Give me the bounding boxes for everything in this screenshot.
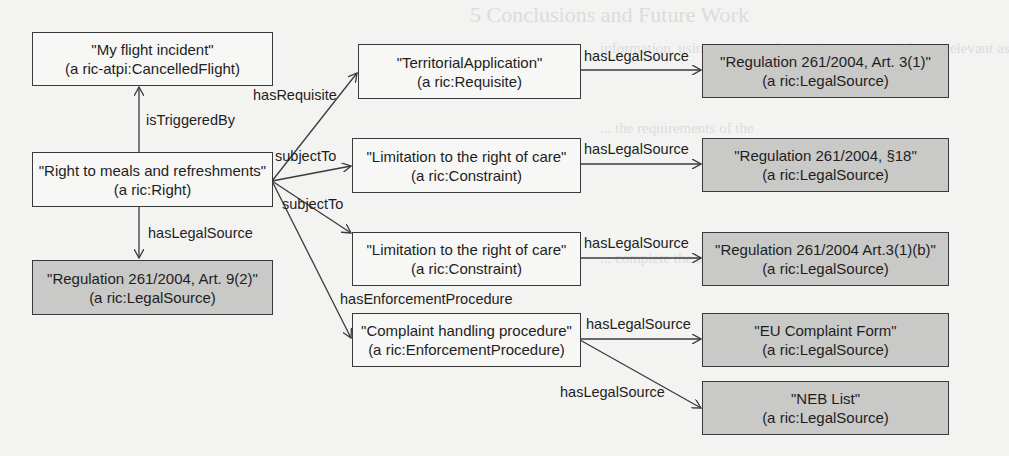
edge-label-has-legal-source-art9: hasLegalSource [148, 225, 253, 241]
node-reg-art3-1: "Regulation 261/2004, Art. 3(1)" (a ric:… [702, 44, 949, 98]
node-title: "Limitation to the right of care" [367, 147, 567, 166]
node-title: "Regulation 261/2004 Art.3(1)(b)" [715, 240, 936, 259]
node-type: (a ric:Requisite) [417, 72, 522, 91]
edge-label-is-triggered-by: isTriggeredBy [146, 112, 235, 128]
node-title: "Right to meals and refreshments" [39, 161, 266, 180]
edge-label-complaint-legal-source-form: hasLegalSource [586, 316, 691, 332]
node-right-meals: "Right to meals and refreshments" (a ric… [32, 152, 273, 207]
node-complaint-procedure: "Complaint handling procedure" (a ric:En… [352, 313, 581, 367]
edge-label-complaint-legal-source-neb: hasLegalSource [560, 384, 665, 400]
node-type: (a ric:LegalSource) [762, 408, 889, 427]
edge-label-limitation2-legal-source: hasLegalSource [584, 235, 689, 251]
node-title: "Complaint handling procedure" [361, 321, 572, 340]
node-title: "Regulation 261/2004, Art. 9(2)" [47, 269, 258, 288]
node-title: "My flight incident" [91, 40, 213, 59]
edge-label-limitation1-legal-source: hasLegalSource [584, 141, 689, 157]
node-type: (a ric:Constraint) [411, 259, 522, 278]
node-neb-list: "NEB List" (a ric:LegalSource) [702, 381, 949, 435]
node-type: (a ric:Constraint) [411, 166, 522, 185]
node-reg-18: "Regulation 261/2004, §18" (a ric:LegalS… [702, 138, 949, 192]
node-flight-incident: "My flight incident" (a ric-atpi:Cancell… [32, 32, 273, 86]
edge-label-subject-to-1: subjectTo [275, 148, 336, 164]
node-type: (a ric:Right) [114, 180, 192, 199]
node-title: "EU Complaint Form" [754, 321, 896, 340]
node-title: "Limitation to the right of care" [367, 240, 567, 259]
node-type: (a ric:EnforcementProcedure) [368, 340, 565, 359]
node-title: "TerritorialApplication" [397, 53, 543, 72]
edge-subject-to-1 [272, 166, 351, 181]
node-reg-art9: "Regulation 261/2004, Art. 9(2)" (a ric:… [32, 260, 273, 315]
node-territorial-application: "TerritorialApplication" (a ric:Requisit… [358, 44, 581, 99]
edge-label-territorial-legal-source: hasLegalSource [584, 48, 689, 64]
node-limitation-1: "Limitation to the right of care" (a ric… [352, 138, 581, 193]
node-title: "Regulation 261/2004, §18" [734, 146, 916, 165]
node-type: (a ric:LegalSource) [762, 71, 889, 90]
node-eu-complaint-form: "EU Complaint Form" (a ric:LegalSource) [702, 313, 949, 367]
node-limitation-2: "Limitation to the right of care" (a ric… [352, 232, 581, 286]
edge-label-has-enforcement-procedure: hasEnforcementProcedure [340, 291, 513, 307]
node-type: (a ric-atpi:CancelledFlight) [65, 59, 240, 78]
node-type: (a ric:LegalSource) [89, 288, 216, 307]
node-type: (a ric:LegalSource) [762, 165, 889, 184]
node-type: (a ric:LegalSource) [762, 259, 889, 278]
node-title: "NEB List" [791, 389, 860, 408]
edge-label-has-requisite: hasRequisite [253, 87, 337, 103]
edge-label-subject-to-2: subjectTo [282, 196, 343, 212]
node-type: (a ric:LegalSource) [762, 340, 889, 359]
node-title: "Regulation 261/2004, Art. 3(1)" [720, 52, 931, 71]
node-reg-art3-1b: "Regulation 261/2004 Art.3(1)(b)" (a ric… [702, 232, 949, 286]
